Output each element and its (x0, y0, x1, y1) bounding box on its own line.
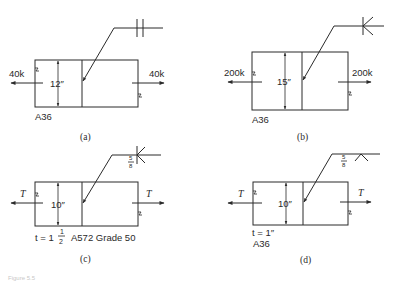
weld-leader (83, 155, 112, 203)
load-label-right: T (358, 187, 365, 198)
thickness-frac-den: 2 (59, 238, 63, 245)
weld-size-denominator: 8 (129, 163, 133, 169)
weld-leader (303, 26, 334, 80)
thickness-prefix: t = 1 (35, 232, 54, 243)
load-label-right: 40k (149, 68, 165, 79)
panel-d: 10″ T T 5 8 t = 1″ A36 (d) (228, 154, 380, 266)
weld-size-numerator: 5 (129, 155, 133, 161)
load-label-left: 200k (224, 67, 245, 78)
panel-caption: (c) (80, 254, 91, 265)
break-mark-left (35, 68, 39, 71)
load-label-right: 200k (352, 67, 373, 78)
load-label-left: T (20, 188, 27, 199)
weld-size-denominator: 8 (342, 162, 346, 168)
panel-caption: (a) (80, 132, 91, 143)
plate-outline (252, 52, 348, 110)
material-label: A36 (253, 238, 270, 249)
panel-caption: (d) (300, 255, 311, 266)
width-dimension: 15″ (277, 76, 292, 87)
break-mark-left (252, 72, 256, 75)
width-dimension: 10″ (51, 199, 66, 210)
width-dimension: 12″ (50, 78, 65, 89)
weld-leader (304, 154, 332, 202)
material-label: A36 (252, 114, 269, 125)
single-v-groove-weld-icon (355, 154, 368, 161)
load-label-left: 40k (9, 68, 25, 79)
material-label: A36 (35, 111, 52, 122)
figure-footer: Figure 5.5 (8, 275, 36, 281)
material-label: A572 Grade 50 (71, 232, 135, 243)
width-dimension: 10″ (278, 198, 293, 209)
break-mark-left (35, 193, 39, 196)
break-mark-right (138, 212, 142, 215)
panel-c: 10″ T T 5 8 t = 1 1 2 A572 Grade 50 (c) (11, 146, 164, 265)
break-mark-left (253, 191, 257, 194)
thickness-label: t = 1″ (252, 227, 275, 238)
break-mark-right (348, 211, 352, 214)
weld-size-numerator: 5 (342, 154, 346, 160)
panel-a: 12″ 40k 40k A36 (a) (9, 19, 165, 143)
load-label-left: T (238, 188, 245, 199)
panel-b: 15″ 200k 200k A36 (b) (224, 17, 384, 143)
break-mark-right (138, 94, 142, 97)
plate-outline (253, 182, 348, 225)
break-mark-right (348, 92, 352, 95)
weld-diagram-figure: 12″ 40k 40k A36 (a) 15″ 200k 200k (0, 0, 396, 281)
weld-leader (83, 28, 114, 81)
thickness-frac-num: 1 (60, 228, 64, 235)
panel-caption: (b) (297, 132, 308, 143)
load-label-right: T (146, 188, 153, 199)
